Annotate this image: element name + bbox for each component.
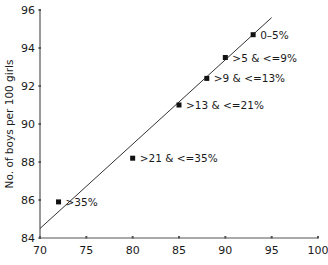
y-tick-label: 88 — [21, 156, 35, 169]
data-point-label: >21 & <=35% — [140, 152, 218, 164]
scatter-chart: 84868890929496707580859095100 0–5%>5 & <… — [0, 0, 328, 265]
x-tick-label: 100 — [308, 244, 328, 257]
y-tick — [39, 85, 42, 87]
y-tick-label: 86 — [21, 194, 35, 207]
x-tick — [132, 236, 134, 239]
y-tick-label: 94 — [21, 42, 35, 55]
y-tick — [39, 199, 42, 201]
ticks: 84868890929496707580859095100 — [21, 4, 328, 257]
data-point-marker — [223, 55, 228, 60]
x-tick — [178, 236, 180, 239]
x-tick-label: 80 — [126, 244, 140, 257]
x-tick-label: 90 — [218, 244, 232, 257]
y-tick — [39, 123, 42, 125]
x-tick — [271, 236, 273, 239]
data-point-marker — [204, 76, 209, 81]
data-point-marker — [251, 32, 256, 37]
x-tick-label: 75 — [79, 244, 93, 257]
data-point-label: >9 & <=13% — [214, 72, 285, 84]
y-tick-label: 96 — [21, 4, 35, 17]
y-tick-label: 90 — [21, 118, 35, 131]
data-point-label: 0–5% — [260, 29, 289, 41]
x-tick-label: 95 — [265, 244, 279, 257]
y-axis-label: No. of boys per 100 girls — [3, 60, 15, 189]
data-point-marker — [130, 156, 135, 161]
x-tick — [224, 236, 226, 239]
x-tick-label: 85 — [172, 244, 186, 257]
data-point-label: >5 & <=9% — [232, 52, 297, 64]
y-tick-label: 92 — [21, 80, 35, 93]
y-tick — [39, 161, 42, 163]
x-tick — [85, 236, 87, 239]
data-point-marker — [177, 103, 182, 108]
data-point-marker — [56, 199, 61, 204]
x-tick — [317, 236, 319, 239]
data-point-label: >35% — [66, 196, 98, 208]
y-tick — [39, 47, 42, 49]
x-tick-label: 70 — [33, 244, 47, 257]
x-tick — [39, 236, 41, 239]
y-tick — [39, 9, 42, 11]
data-point-label: >13 & <=21% — [186, 99, 264, 111]
